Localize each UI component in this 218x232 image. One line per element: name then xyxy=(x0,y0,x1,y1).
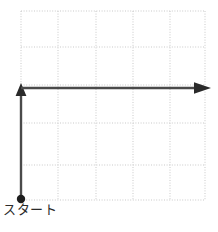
grid-vertical-lines xyxy=(21,11,205,200)
path-diagram xyxy=(0,0,218,232)
grid-group xyxy=(21,11,205,200)
start-label: スタート xyxy=(3,202,57,218)
figure-canvas: スタート xyxy=(0,0,218,232)
grid-horizontal-lines xyxy=(21,11,205,200)
path-group xyxy=(16,82,211,203)
arrowhead-up-icon xyxy=(16,83,27,96)
arrowhead-right-icon xyxy=(194,82,211,94)
